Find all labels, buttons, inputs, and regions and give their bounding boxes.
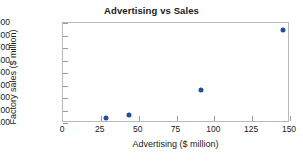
x-axis-tick xyxy=(214,116,215,121)
x-axis-tick xyxy=(177,116,178,121)
y-axis-tick xyxy=(63,73,68,74)
data-point xyxy=(126,112,131,117)
data-point xyxy=(280,27,285,32)
plot-area xyxy=(62,22,289,122)
x-axis-tick-label: 0 xyxy=(60,124,65,134)
chart-container: Advertising vs Sales 1002003004005006007… xyxy=(0,0,303,161)
data-point xyxy=(199,88,204,93)
y-axis-tick xyxy=(63,61,68,62)
x-axis-tick xyxy=(252,116,253,121)
y-axis-tick xyxy=(63,86,68,87)
y-axis-tick xyxy=(63,48,68,49)
x-axis-tick xyxy=(290,116,291,121)
x-axis-tick-label: 125 xyxy=(244,124,258,134)
y-axis-tick xyxy=(63,111,68,112)
x-axis-tick-label: 150 xyxy=(282,124,296,134)
y-axis-title: Factory sales ($ million) xyxy=(8,17,18,137)
y-axis-tick xyxy=(63,23,68,24)
y-axis-tick xyxy=(63,98,68,99)
x-axis-tick xyxy=(139,116,140,121)
x-axis-title: Advertising ($ million) xyxy=(62,139,289,149)
x-axis-tick xyxy=(101,116,102,121)
x-axis-tick-label: 100 xyxy=(206,124,220,134)
x-axis-tick-label: 25 xyxy=(95,124,104,134)
data-point xyxy=(103,116,108,121)
y-axis-tick xyxy=(63,36,68,37)
x-axis-tick-label: 50 xyxy=(133,124,142,134)
chart-title: Advertising vs Sales xyxy=(0,5,303,16)
x-axis-tick-label: 75 xyxy=(171,124,180,134)
